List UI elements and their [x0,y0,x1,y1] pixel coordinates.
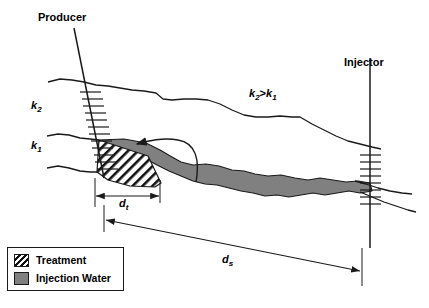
legend-label-injection-water: Injection Water [36,273,111,284]
lower-formation-boundary [47,166,97,172]
injection-water-swatch-icon [14,272,29,285]
upper-layer-permeability-label: k2 [31,100,42,114]
lower-layer-permeability-label: k1 [31,140,42,154]
separation-distance-label: ds [222,254,233,268]
separation-distance-subscript: s [229,259,233,268]
treatment-swatch-icon [14,254,29,267]
legend-label-treatment: Treatment [36,255,86,266]
layer-interface-boundary [47,134,99,140]
upper-formation-boundary [48,79,381,149]
injector-well-label: Injector [344,57,384,68]
permeability-inequality-annotation: k2>k1 [249,88,277,102]
lower-layer-permeability-subscript: 1 [37,145,41,154]
treatment-distance-label: dt [119,198,128,212]
legend: Treatment Injection Water [7,247,124,291]
producer-well-label: Producer [38,12,86,23]
legend-item-treatment: Treatment [14,253,86,268]
upper-layer-permeability-subscript: 2 [37,105,41,114]
separation-distance-symbol: d [222,253,229,265]
treatment-distance-symbol: d [119,197,126,209]
right-boundary-lower [360,192,416,212]
separation-distance-dimension [104,205,362,286]
inequality-right-subscript: 1 [272,93,276,102]
treatment-distance-subscript: t [126,203,129,212]
legend-item-injection-water: Injection Water [14,271,111,286]
